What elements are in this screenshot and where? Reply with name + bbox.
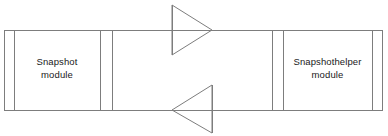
diagram-canvas-svg <box>0 0 388 136</box>
bottom-arrow-triangle-icon <box>172 85 212 133</box>
block-diagram: Snapshot module Snapshothelper module <box>0 0 388 136</box>
